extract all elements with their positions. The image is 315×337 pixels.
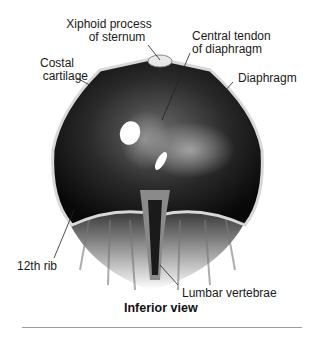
view-caption: Inferior view [124,301,198,315]
label-line: cartilage [38,70,88,83]
label-costal-cartilage: Costal cartilage [38,57,88,83]
label-line: of diaphragm [192,43,271,56]
label-line: of sternum [65,31,153,44]
label-xiphoid-process: Xiphoid process of sternum [65,18,153,44]
label-12th-rib: 12th rib [17,260,57,273]
label-diaphragm: Diaphragm [238,72,297,85]
divider [22,327,302,328]
label-central-tendon: Central tendon of diaphragm [192,30,271,56]
label-lumbar-vertebrae: Lumbar vertebrae [182,287,277,300]
